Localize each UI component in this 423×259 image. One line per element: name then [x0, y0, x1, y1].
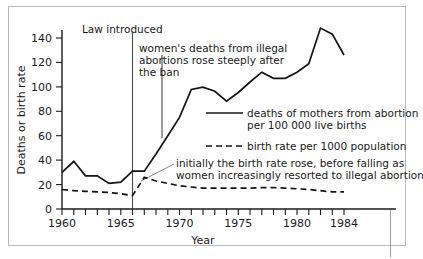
annotation-deaths-rose-line1: women's deaths from illegal [139, 42, 287, 54]
x-tick-label-1970: 1970 [166, 217, 194, 230]
annotation-deaths-rose-line2: abortions rose steeply after [139, 54, 285, 66]
y-tick-label-40: 40 [38, 154, 52, 167]
legend-label-deaths-line2: per 100 000 live births [247, 119, 367, 131]
annotation-deaths-rose-line3: the ban [139, 66, 179, 78]
y-tick-label-20: 20 [38, 179, 52, 192]
x-ticks-minor [62, 209, 344, 215]
legend: deaths of mothers from abortion per 100 … [206, 107, 418, 152]
x-tick-label-1960: 1960 [48, 217, 76, 230]
annotation-birth-rate-rose: initially the birth rate rose, before fa… [176, 157, 423, 181]
y-tick-label-60: 60 [38, 130, 52, 143]
legend-item-birthrate: birth rate per 1000 population [206, 140, 406, 152]
legend-label-deaths-line1: deaths of mothers from abortion [247, 107, 418, 119]
y-tick-label-80: 80 [38, 105, 52, 118]
legend-label-birthrate: birth rate per 1000 population [247, 140, 406, 152]
y-ticks [56, 38, 62, 209]
y-axis-title: Deaths or birth rate [15, 65, 28, 174]
annotation-law-introduced: Law introduced [82, 23, 163, 35]
x-axis-title: Year [190, 234, 215, 247]
x-tick-labels: 1960 1965 1970 1975 1980 1984 [48, 217, 358, 230]
legend-item-deaths: deaths of mothers from abortion per 100 … [206, 107, 418, 131]
x-tick-label-1980: 1980 [283, 217, 311, 230]
y-tick-label-0: 0 [45, 203, 52, 216]
y-tick-label-120: 120 [31, 56, 52, 69]
y-tick-label-100: 100 [31, 81, 52, 94]
annotation-deaths-rose: women's deaths from illegal abortions ro… [139, 42, 287, 78]
line-chart: 0 20 40 60 80 100 120 140 [0, 0, 423, 259]
x-tick-label-1975: 1975 [224, 217, 252, 230]
annotation-birth-rate-line1: initially the birth rate rose, before fa… [176, 157, 404, 169]
x-tick-label-1965: 1965 [107, 217, 135, 230]
y-tick-labels: 0 20 40 60 80 100 120 140 [31, 32, 52, 216]
annotation-birth-rate-line2: women increasingly resorted to illegal a… [176, 169, 423, 181]
chart-figure: 0 20 40 60 80 100 120 140 [0, 0, 423, 259]
x-tick-label-1984: 1984 [330, 217, 358, 230]
y-tick-label-140: 140 [31, 32, 52, 45]
